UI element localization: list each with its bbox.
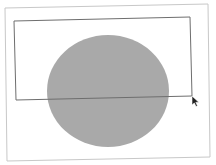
- mouse-pointer-icon: [192, 96, 199, 107]
- gray-circle-shape[interactable]: [47, 35, 169, 147]
- drawing-canvas[interactable]: [0, 0, 216, 165]
